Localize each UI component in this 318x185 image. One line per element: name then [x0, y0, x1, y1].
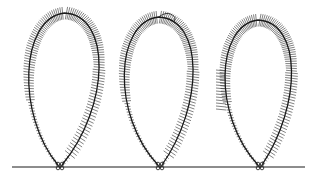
loop-1	[23, 7, 105, 170]
loop-fringe	[23, 7, 105, 164]
loops	[23, 7, 297, 170]
loop-fringe	[220, 14, 298, 164]
loop-fringe	[119, 11, 199, 164]
loop-2	[119, 11, 199, 170]
loops-diagram	[0, 0, 318, 185]
loop-3	[216, 14, 298, 170]
